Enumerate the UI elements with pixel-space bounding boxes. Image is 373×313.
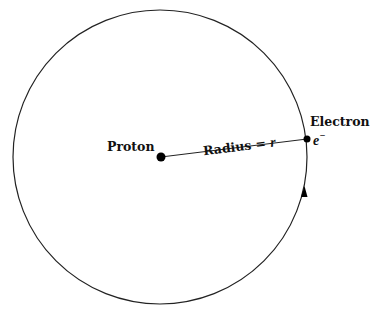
proton-label: Proton [107,139,155,154]
direction-arrow-icon [301,186,308,197]
electron-dot [304,136,311,143]
proton-dot [157,153,166,162]
radius-label: Radius = r [202,134,277,158]
electron-label: Electron [310,114,370,129]
electron-symbol: e− [313,130,325,148]
atom-diagram: Proton Radius = r Electron e− [0,0,373,313]
